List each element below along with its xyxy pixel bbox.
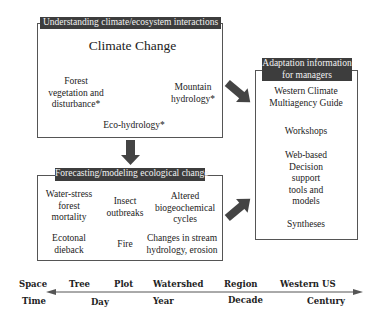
down-arrow-icon <box>121 140 140 165</box>
space-tick-western-us: Western US <box>280 279 336 289</box>
biogeochemical-item: Altered biogeochemical cycles <box>150 191 220 226</box>
insect-outbreaks-item: Insect outbreaks <box>100 196 150 219</box>
time-tick-year: Year <box>153 296 174 306</box>
mountain-hydrology-node: Mountain hydrology* <box>166 82 220 105</box>
eco-hydrology-node: Eco-hydrology* <box>100 120 168 132</box>
adaptation-header: Adaptation information for managers <box>262 58 352 81</box>
water-stress-item: Water-stress forest mortality <box>40 189 98 224</box>
time-tick-day: Day <box>91 297 109 307</box>
arrow-to-adaptation-icon <box>221 76 256 109</box>
stream-hydrology-item: Changes in stream hydrology, erosion <box>142 233 222 256</box>
ecotonal-dieback-item: Ecotonal dieback <box>40 233 98 256</box>
space-tick-plot: Plot <box>114 279 133 289</box>
forest-vegetation-node: Forest vegetation and disturbance* <box>44 76 108 111</box>
arrow-from-forecasting-icon <box>221 192 256 225</box>
time-label: Time <box>22 296 46 306</box>
scale-axis-arrow <box>46 289 363 295</box>
space-tick-region: Region <box>224 279 258 289</box>
time-tick-century: Century <box>307 296 345 306</box>
western-climate-guide-item: Western Climate Multiagency Guide <box>258 86 354 109</box>
understanding-header: Understanding climate/ecosystem interact… <box>40 17 221 29</box>
climate-change-title: Climate Change <box>80 38 185 53</box>
space-tick-watershed: Watershed <box>153 279 203 289</box>
workshops-item: Workshops <box>258 126 354 138</box>
space-label: Space <box>19 279 47 289</box>
decision-support-tools-item: Web-based Decision support tools and mod… <box>258 150 354 208</box>
forecasting-header: Forecasting/modeling ecological change <box>55 168 205 181</box>
time-tick-decade: Decade <box>228 295 263 305</box>
space-tick-tree: Tree <box>69 279 90 289</box>
syntheses-item: Syntheses <box>258 219 354 231</box>
